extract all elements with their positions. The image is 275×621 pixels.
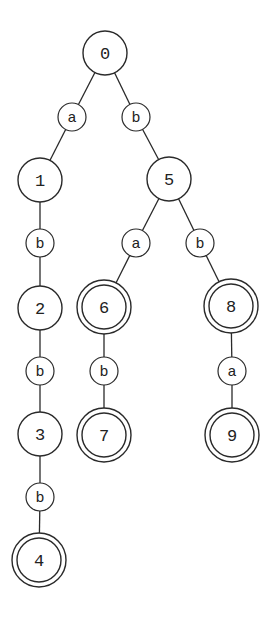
state-label: 2 — [35, 300, 45, 319]
edge-label-text: b — [131, 110, 140, 127]
edge-label-text: b — [35, 364, 44, 381]
state-label: 0 — [100, 45, 110, 64]
state-node-6-accepting: 6 — [77, 280, 131, 334]
state-label: 7 — [99, 427, 109, 446]
state-node-9-accepting: 9 — [205, 408, 259, 462]
state-label: 9 — [227, 427, 237, 446]
edge-label: b — [26, 357, 54, 385]
state-node-1: 1 — [18, 158, 62, 202]
state-label: 3 — [35, 426, 45, 445]
state-label: 5 — [164, 171, 174, 190]
edge-label-text: a — [131, 236, 140, 253]
state-label: 8 — [226, 298, 236, 317]
state-node-0: 0 — [83, 31, 127, 75]
state-node-8-accepting: 8 — [204, 279, 258, 333]
edge-label: a — [122, 229, 150, 257]
edge-label-text: b — [99, 364, 108, 381]
trie-diagram: abbbbabba 0123456789 — [0, 0, 275, 621]
state-node-3: 3 — [18, 412, 62, 456]
edge-label-text: a — [227, 364, 236, 381]
state-node-7-accepting: 7 — [77, 408, 131, 462]
edge-label: b — [26, 483, 54, 511]
state-node-4-accepting: 4 — [12, 533, 66, 587]
edge-label: b — [26, 229, 54, 257]
state-label: 4 — [34, 552, 44, 571]
edge-label: b — [186, 229, 214, 257]
edge-label-text: b — [35, 490, 44, 507]
edge-label-text: a — [67, 110, 76, 127]
edge-label-text: b — [35, 236, 44, 253]
edge-label: a — [58, 103, 86, 131]
state-label: 1 — [35, 172, 45, 191]
state-node-5: 5 — [147, 157, 191, 201]
edge-label-text: b — [195, 236, 204, 253]
edge-label: b — [90, 357, 118, 385]
state-label: 6 — [99, 299, 109, 318]
edge-label: a — [218, 357, 246, 385]
state-node-2: 2 — [18, 286, 62, 330]
edge-label: b — [122, 103, 150, 131]
